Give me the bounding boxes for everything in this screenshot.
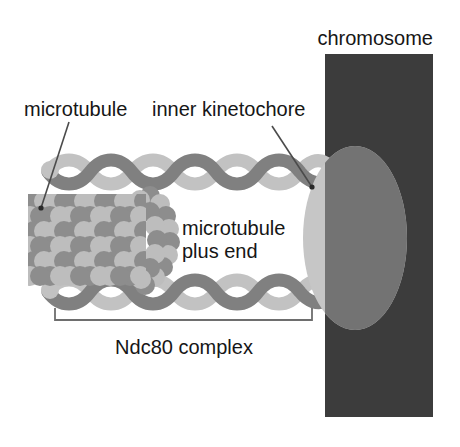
microtubule-lattice bbox=[20, 186, 180, 295]
inner-kinetochore bbox=[303, 146, 407, 330]
microtubule-plus-end-label-line1: microtubule bbox=[182, 217, 285, 239]
inner-kinetochore-leader-dot bbox=[309, 184, 314, 189]
ndc80-complex-label: Ndc80 complex bbox=[115, 336, 253, 358]
chromosome-label: chromosome bbox=[317, 27, 433, 49]
microtubule-body bbox=[20, 191, 154, 286]
kinetochore-diagram: chromosome microtubule inner kinetochore… bbox=[0, 0, 460, 447]
microtubule-label: microtubule bbox=[24, 98, 127, 120]
diagram-canvas: chromosome microtubule inner kinetochore… bbox=[0, 0, 460, 447]
inner-kinetochore-label: inner kinetochore bbox=[152, 98, 305, 120]
microtubule-plus-end-label-line2: plus end bbox=[182, 240, 258, 262]
coil-cap-upper bbox=[41, 161, 59, 179]
microtubule-leader-dot bbox=[38, 205, 43, 210]
